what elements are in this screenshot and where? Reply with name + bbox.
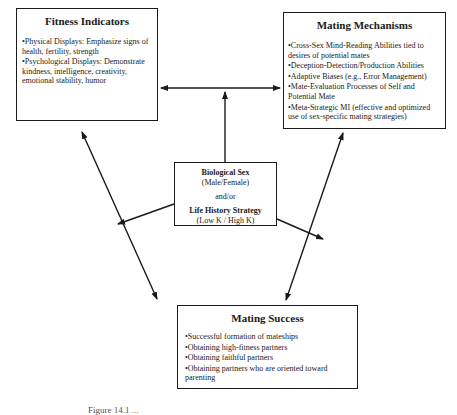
mating-success-title: Mating Success (185, 312, 350, 324)
list-item: Physical Displays: Emphasize signs of he… (22, 37, 152, 56)
list-item: Cross-Sex Mind-Reading Abilities tied to… (288, 41, 441, 60)
biological-sex-title: Biological Sex (175, 168, 276, 178)
mechanisms-success-arrow (286, 133, 343, 300)
center-left-arrow (118, 204, 174, 224)
mating-success-list: Successful formation of mateships Obtain… (185, 332, 350, 383)
list-item: Obtaining high-fitness partners (185, 343, 350, 353)
life-history-title: Life History Strategy (175, 206, 276, 216)
center-right-arrow (277, 219, 323, 239)
list-item: Obtaining partners who are oriented towa… (185, 364, 350, 383)
fitness-indicators-title: Fitness Indicators (22, 15, 152, 27)
list-item: Meta-Strategic MI (effective and optimiz… (288, 103, 441, 122)
life-history-subtitle: (Low K / High K) (175, 216, 276, 226)
mating-mechanisms-title: Mating Mechanisms (288, 19, 441, 31)
fitness-success-arrow (82, 132, 157, 299)
and-or-connector: and/or (175, 192, 276, 202)
mating-success-box: Mating Success Successful formation of m… (177, 305, 358, 389)
mating-mechanisms-box: Mating Mechanisms Cross-Sex Mind-Reading… (283, 12, 446, 129)
figure-caption: Figure 14.1 ... (88, 405, 139, 415)
biological-sex-subtitle: (Male/Female) (175, 178, 276, 188)
list-item: Successful formation of mateships (185, 332, 350, 342)
fitness-indicators-box: Fitness Indicators Physical Displays: Em… (16, 8, 158, 121)
biological-sex-life-history-box: Biological Sex (Male/Female) and/or Life… (174, 162, 277, 226)
mating-mechanisms-list: Cross-Sex Mind-Reading Abilities tied to… (288, 41, 441, 122)
list-item: Deception-Detection/Production Abilities (288, 61, 441, 71)
list-item: Adaptive Biases (e.g., Error Management) (288, 72, 441, 82)
list-item: Obtaining faithful partners (185, 353, 350, 363)
list-item: Mate-Evaluation Processes of Self and Po… (288, 82, 441, 101)
list-item: Psychological Displays: Demonstrate kind… (22, 57, 152, 86)
fitness-indicators-list: Physical Displays: Emphasize signs of he… (22, 37, 152, 86)
